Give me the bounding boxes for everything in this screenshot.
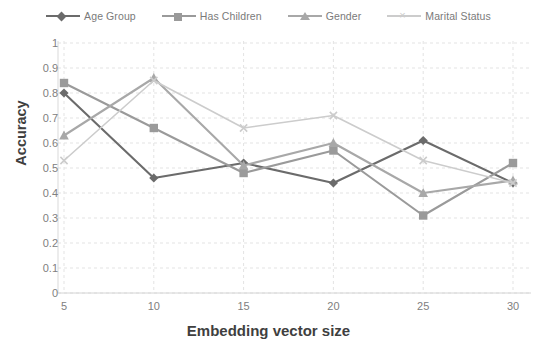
- y-tick-label: 0: [12, 287, 58, 299]
- y-axis-title: Accuracy: [13, 68, 29, 198]
- plot-area: [0, 0, 537, 346]
- accuracy-vs-embedding-size-chart: Age GroupHas ChildrenGender×Marital Stat…: [0, 0, 537, 346]
- y-tick-label: 0.3: [12, 212, 58, 224]
- x-axis-title: Embedding vector size: [0, 322, 537, 339]
- y-tick-label: 1: [12, 37, 58, 49]
- x-tick-label: 10: [148, 300, 160, 312]
- legend-item-has-children[interactable]: Has Children: [162, 10, 262, 22]
- legend-triangle-marker-icon: [288, 10, 322, 22]
- data-point-marker: [419, 136, 428, 145]
- legend-item-age-group[interactable]: Age Group: [46, 10, 136, 22]
- x-tick-label: 5: [61, 300, 67, 312]
- legend-square-marker-icon: [162, 10, 196, 22]
- x-tick-label: 25: [417, 300, 429, 312]
- series-line: [64, 93, 513, 183]
- legend-x-marker-icon: ×: [387, 10, 421, 22]
- y-tick-label: 0.1: [12, 262, 58, 274]
- data-point-marker: [419, 211, 427, 219]
- x-tick-label: 30: [507, 300, 519, 312]
- series-has-children: [60, 79, 517, 220]
- data-point-marker: [329, 146, 337, 154]
- legend-item-marital-status[interactable]: ×Marital Status: [387, 10, 491, 22]
- x-tick-label: 20: [327, 300, 339, 312]
- series-line: [64, 78, 513, 193]
- legend-label: Age Group: [84, 10, 136, 22]
- data-point-marker: [239, 169, 247, 177]
- data-point-marker: [329, 178, 338, 187]
- legend-label: Marital Status: [425, 10, 491, 22]
- chart-legend: Age GroupHas ChildrenGender×Marital Stat…: [0, 4, 537, 28]
- data-point-marker: [59, 131, 69, 140]
- gridlines: [58, 41, 531, 293]
- data-point-marker: [150, 124, 158, 132]
- x-tick-label: 15: [237, 300, 249, 312]
- legend-label: Has Children: [200, 10, 262, 22]
- series-line: [64, 83, 513, 216]
- series-gender: [59, 73, 518, 197]
- data-point-marker: [60, 79, 68, 87]
- y-axis-tick-labels: 00.10.20.30.40.50.60.70.80.91: [0, 0, 58, 346]
- y-tick-label: 0.2: [12, 237, 58, 249]
- legend-item-gender[interactable]: Gender: [288, 10, 362, 22]
- legend-label: Gender: [326, 10, 362, 22]
- data-point-marker: [509, 159, 517, 167]
